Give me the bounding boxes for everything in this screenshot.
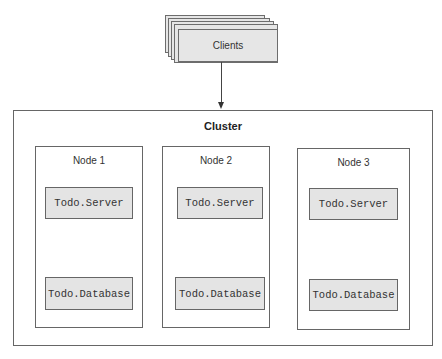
- clients-label: Clients: [213, 40, 244, 51]
- cluster-title: Cluster: [13, 120, 433, 132]
- node-1-server-box: Todo.Server: [45, 187, 133, 219]
- node-3-database-label: Todo.Database: [313, 289, 395, 301]
- node-1-title: Node 1: [35, 155, 143, 166]
- node-2-database-label: Todo.Database: [179, 288, 261, 300]
- node-1-database-box: Todo.Database: [45, 277, 133, 310]
- node-2-database-box: Todo.Database: [175, 277, 265, 310]
- node-3-title: Node 3: [297, 157, 410, 168]
- node-2-title: Node 2: [162, 155, 270, 166]
- node-3-server-label: Todo.Server: [319, 198, 388, 210]
- node-2-server-label: Todo.Server: [185, 197, 254, 209]
- clients-to-cluster-arrow-line: [221, 62, 222, 103]
- arrow-head-icon: [218, 102, 224, 109]
- clients-box: Clients: [178, 29, 278, 62]
- node-3-database-box: Todo.Database: [309, 279, 398, 311]
- node-1-database-label: Todo.Database: [48, 288, 130, 300]
- node-1-server-label: Todo.Server: [54, 197, 123, 209]
- node-3-server-box: Todo.Server: [309, 188, 398, 220]
- node-2-server-box: Todo.Server: [177, 187, 263, 219]
